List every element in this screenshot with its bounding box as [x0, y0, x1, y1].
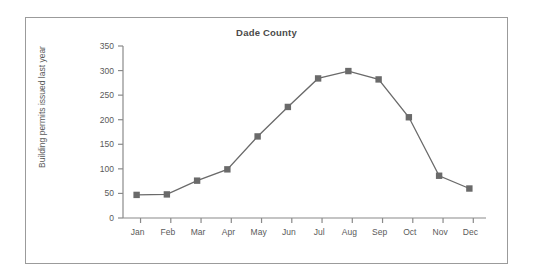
x-axis-tick-label: Aug	[342, 227, 357, 237]
y-axis-tick-label: 250	[100, 90, 114, 100]
y-axis-tick-label: 100	[100, 164, 114, 174]
x-axis-tick-label: Apr	[222, 227, 235, 237]
chart-figure-frame: Dade County Building permits issued last…	[25, 17, 508, 264]
x-axis-ticks	[141, 218, 474, 223]
y-axis-tick-label: 300	[100, 66, 114, 76]
data-point-marker	[436, 173, 442, 179]
data-series-markers	[133, 68, 472, 198]
data-series-line	[137, 71, 470, 195]
data-point-marker	[466, 185, 472, 191]
x-axis-tick-label: Oct	[403, 227, 417, 237]
y-axis-tick-labels: 050100150200250300350	[100, 41, 114, 223]
data-point-marker	[164, 191, 170, 197]
y-axis-tick-label: 350	[100, 41, 114, 51]
y-axis-ticks	[118, 46, 123, 218]
x-axis-tick-label: Jun	[282, 227, 296, 237]
data-point-marker	[133, 192, 139, 198]
data-point-marker	[375, 76, 381, 82]
y-axis-tick-label: 50	[105, 188, 115, 198]
x-axis-tick-label: Nov	[433, 227, 449, 237]
data-point-marker	[285, 104, 291, 110]
y-axis-tick-label: 0	[109, 213, 114, 223]
x-axis-tick-label: May	[251, 227, 268, 237]
x-axis-tick-labels: JanFebMarAprMayJunJulAugSepOctNovDec	[131, 227, 479, 237]
x-axis-tick-label: Jan	[131, 227, 145, 237]
data-point-marker	[406, 114, 412, 120]
x-axis-tick-label: Jul	[314, 227, 325, 237]
line-chart-plot: 050100150200250300350 JanFebMarAprMayJun…	[26, 18, 507, 263]
x-axis-tick-label: Sep	[372, 227, 387, 237]
y-axis-tick-label: 150	[100, 139, 114, 149]
data-point-marker	[315, 75, 321, 81]
x-axis-tick-label: Feb	[161, 227, 176, 237]
data-point-marker	[254, 133, 260, 139]
x-axis-tick-label: Dec	[463, 227, 479, 237]
x-axis-tick-label: Mar	[191, 227, 206, 237]
data-point-marker	[224, 166, 230, 172]
y-axis-tick-label: 200	[100, 115, 114, 125]
data-point-marker	[345, 68, 351, 74]
data-point-marker	[194, 177, 200, 183]
